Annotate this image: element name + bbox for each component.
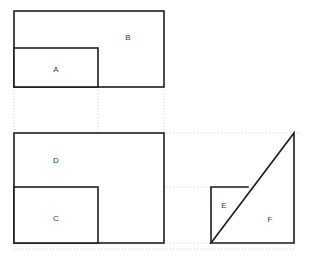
shape-label-c: C — [53, 214, 59, 223]
shape-label-e: E — [221, 201, 226, 210]
shape-label-d: D — [53, 156, 59, 165]
shape-label-f: F — [268, 215, 273, 224]
shape-triangle-f — [211, 133, 294, 243]
shape-group-top: B A — [14, 11, 164, 87]
geometry-figure: B A D C E F — [0, 0, 310, 260]
shape-label-b: B — [125, 33, 130, 42]
shape-group-triangle: E F — [211, 133, 294, 243]
shape-label-a: A — [53, 65, 59, 74]
shape-group-bottom-left: D C — [14, 133, 164, 243]
figure-canvas: B A D C E F — [0, 0, 310, 260]
